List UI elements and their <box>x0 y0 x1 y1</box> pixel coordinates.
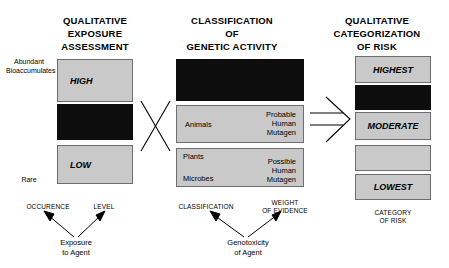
heading-line: QUALITATIVE <box>47 14 143 27</box>
caption-occurrence: OCCURENCE <box>18 203 78 211</box>
heading-line: QUALITATIVE <box>312 14 442 27</box>
exposure-scale-bottom-label: Rare <box>6 176 52 185</box>
risk-box-highest-label: HIGHEST <box>356 65 430 75</box>
classification-box-black <box>176 59 304 101</box>
classification-possible-human-mutagen-label: Possible Human Mutagen <box>267 157 296 184</box>
classification-box-possible: Plants Microbes Possible Human Mutagen <box>176 148 304 187</box>
heading-line: OF RISK <box>312 40 442 53</box>
exposure-source-arrows-icon <box>44 211 105 237</box>
heading-line: CLASSIFICATION <box>168 14 296 27</box>
risk-box-lowest-label: LOWEST <box>356 182 430 192</box>
exposure-box-low: LOW <box>57 145 133 184</box>
exposure-box-high: HIGH <box>57 59 133 102</box>
source-exposure-to-agent: Exposure to Agent <box>46 238 106 257</box>
classification-plants-label: Plants <box>183 152 204 161</box>
heading-line: GENETIC ACTIVITY <box>168 40 296 53</box>
risk-box-unlabeled <box>355 145 431 171</box>
caption-level: LEVEL <box>84 203 124 211</box>
heading-line: ASSESSMENT <box>47 40 143 53</box>
risk-box-moderate: MODERATE <box>355 112 431 140</box>
caption-category-of-risk: CATEGORY OF RISK <box>358 209 428 225</box>
heading-line: CATEGORIZATION <box>312 27 442 40</box>
cross-connector-icon <box>141 101 170 151</box>
risk-box-black <box>355 85 431 110</box>
column-heading-exposure: QUALITATIVE EXPOSURE ASSESSMENT <box>47 14 143 53</box>
arrow-connector-icon <box>310 97 350 142</box>
classification-animals-label: Animals <box>185 120 212 129</box>
column-heading-classification: CLASSIFICATION OF GENETIC ACTIVITY <box>168 14 296 53</box>
exposure-box-medium <box>57 104 133 140</box>
exposure-box-low-label: LOW <box>70 160 91 170</box>
column-heading-risk: QUALITATIVE CATEGORIZATION OF RISK <box>312 14 442 53</box>
exposure-box-high-label: HIGH <box>70 76 93 86</box>
caption-classification: CLASSIFICATION <box>168 203 244 211</box>
source-genotoxicity-of-agent: Genotoxicity of Agent <box>214 238 282 257</box>
classification-microbes-label: Microbes <box>183 174 213 183</box>
heading-line: EXPOSURE <box>47 27 143 40</box>
classification-probable-human-mutagen-label: Probable Human Mutagen <box>266 110 296 137</box>
risk-box-lowest: LOWEST <box>355 174 431 200</box>
classification-box-probable: Animals Probable Human Mutagen <box>176 105 304 143</box>
risk-assessment-diagram: QUALITATIVE EXPOSURE ASSESSMENT CLASSIFI… <box>0 0 449 268</box>
exposure-scale-top-label: Abundant Bioaccumulates <box>6 58 52 75</box>
risk-box-highest: HIGHEST <box>355 56 431 83</box>
risk-box-moderate-label: MODERATE <box>356 121 430 131</box>
caption-weight-of-evidence: WEIGHT OF EVIDENCE <box>254 199 316 215</box>
heading-line: OF <box>168 27 296 40</box>
